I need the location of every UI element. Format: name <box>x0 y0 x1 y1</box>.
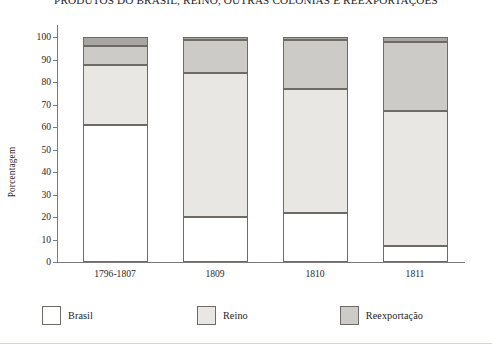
legend-label: Reexportação <box>366 310 423 321</box>
chart-legend: BrasilReinoReexportaçãoOutras colônias <box>42 303 462 327</box>
bar-segment <box>283 37 348 40</box>
y-tick-label: 60 <box>41 122 51 132</box>
legend-swatch-icon <box>197 306 216 325</box>
bar-group <box>83 25 148 263</box>
y-tick-label: 20 <box>41 212 51 222</box>
y-tick-label: 10 <box>41 235 51 245</box>
y-tick-mark <box>53 195 57 196</box>
bar-segment <box>183 73 248 217</box>
legend-item[interactable]: Brasil <box>42 303 93 327</box>
bar-segment <box>183 37 248 40</box>
bar-segment <box>383 37 448 42</box>
y-tick-mark <box>53 82 57 83</box>
y-axis-line <box>57 25 58 263</box>
y-tick-mark <box>53 105 57 106</box>
y-tick-label: 50 <box>41 145 51 155</box>
y-tick-mark <box>53 217 57 218</box>
chart-figure: PRODUTOS DO BRASIL, REINO, OUTRAS COLÔNI… <box>0 0 492 344</box>
bar-segment <box>183 217 248 262</box>
y-tick-label: 80 <box>41 77 51 87</box>
bar-segment <box>283 40 348 88</box>
bar-group <box>183 25 248 263</box>
y-tick-mark <box>53 172 57 173</box>
y-tick-mark <box>53 150 57 151</box>
y-tick-mark <box>53 37 57 38</box>
bar-segment <box>283 213 348 263</box>
y-tick-label: 100 <box>37 32 51 42</box>
y-axis-title: Porcentagem <box>7 147 17 198</box>
y-tick-label: 90 <box>41 55 51 65</box>
x-tick-label: 1809 <box>165 269 265 279</box>
plot-area: 1009080706050403020100 1796-180718091810… <box>57 25 465 263</box>
x-tick-label: 1810 <box>265 269 365 279</box>
y-tick-label: 30 <box>41 190 51 200</box>
y-tick-label: 0 <box>46 257 51 267</box>
bar-segment <box>383 42 448 112</box>
x-tick-label: 1811 <box>365 269 465 279</box>
y-tick-mark <box>53 240 57 241</box>
bar-segment <box>83 125 148 262</box>
legend-swatch-icon <box>340 306 359 325</box>
bar-group <box>283 25 348 263</box>
legend-item[interactable]: Reino <box>197 303 248 327</box>
y-tick-mark <box>53 262 57 263</box>
bar-segment <box>283 89 348 213</box>
bar-segment <box>83 65 148 125</box>
chart-title: PRODUTOS DO BRASIL, REINO, OUTRAS COLÔNI… <box>0 0 492 7</box>
legend-item[interactable]: Reexportação <box>340 303 423 327</box>
x-tick-label: 1796-1807 <box>65 269 165 279</box>
bar-segment <box>183 40 248 73</box>
legend-label: Reino <box>223 310 248 321</box>
y-tick-mark <box>53 127 57 128</box>
legend-label: Brasil <box>68 310 93 321</box>
bar-segment <box>383 246 448 262</box>
y-tick-label: 70 <box>41 100 51 110</box>
bar-segment <box>83 37 148 46</box>
y-tick-mark <box>53 60 57 61</box>
legend-swatch-icon <box>42 306 61 325</box>
bar-group <box>383 25 448 263</box>
bar-segment <box>83 46 148 65</box>
bar-segment <box>383 111 448 246</box>
y-tick-label: 40 <box>41 167 51 177</box>
